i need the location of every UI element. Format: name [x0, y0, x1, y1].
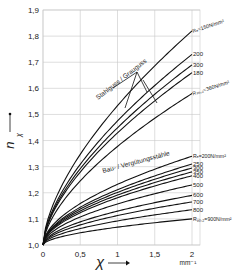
x-axis-label: χ: [94, 253, 105, 270]
y-tick-label: 1,9: [28, 6, 40, 15]
y-axis-subscript: χ: [15, 133, 23, 138]
series-label: 600: [193, 192, 204, 198]
series-label: 200: [193, 51, 204, 57]
x-tick-label: 1,5: [149, 250, 161, 259]
y-tick-label: 1,2: [28, 189, 40, 198]
x-tick-label: 1: [115, 250, 120, 259]
annotations: Stahlguss / GraugussBau- / Vergütungsstä…: [94, 57, 171, 175]
x-unit-label: mm⁻¹: [180, 259, 198, 266]
series-label: Rₚ₀,₂=360N/mm²: [191, 79, 230, 97]
y-arrowhead-icon: [9, 113, 12, 116]
y-tick-label: 1,8: [28, 32, 40, 41]
x-tick-label: 2: [190, 250, 195, 259]
series-label: Rₑ=150N/mm²: [191, 18, 224, 34]
y-axis-label: n: [2, 141, 17, 148]
y-tick-label: 1,7: [28, 58, 40, 67]
series-label: 300: [193, 62, 204, 68]
series-labels: Rₑ=150N/mm²200300180Rₚ₀,₂=360N/mm²Rₑ=200…: [191, 18, 231, 222]
series-label: Rₚ₀,₂=900N/mm²: [193, 216, 232, 222]
x-tick-label: 0,5: [75, 250, 87, 259]
series-label: Rₑ=200N/mm²: [193, 153, 226, 159]
axis-ticks: 1,01,11,21,31,41,51,61,71,81,900,511,52m…: [2, 6, 197, 270]
series-label: 800: [193, 207, 204, 213]
series-label: 500: [193, 182, 204, 188]
y-tick-label: 1,5: [28, 110, 40, 119]
y-tick-label: 1,6: [28, 84, 40, 93]
y-tick-label: 1,1: [28, 215, 40, 224]
x-tick-label: 0: [41, 250, 46, 259]
series-label: 700: [193, 199, 204, 205]
y-tick-label: 1,4: [28, 137, 40, 146]
series-label: 400: [193, 173, 204, 179]
y-tick-label: 1,0: [28, 241, 40, 250]
chart: Rₑ=150N/mm²200300180Rₚ₀,₂=360N/mm²Rₑ=200…: [0, 0, 242, 274]
series-label: 180: [193, 70, 204, 76]
annotation-steel: Bau- / Vergütungsstähle: [101, 149, 170, 175]
x-arrowhead-icon: [126, 261, 130, 266]
y-tick-label: 1,3: [28, 163, 40, 172]
